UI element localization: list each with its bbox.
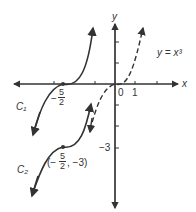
curve-c2 bbox=[32, 104, 91, 195]
y-axis-label: y bbox=[112, 12, 117, 22]
y-tick-neg3: −3 bbox=[99, 143, 110, 153]
point-c2-inflection bbox=[61, 145, 65, 149]
curve-y-equals-x-cubed bbox=[90, 28, 143, 130]
y-axis bbox=[115, 24, 119, 208]
c1-label: C₁ bbox=[16, 102, 26, 112]
x-axis-label: x bbox=[182, 79, 187, 89]
x-axis bbox=[14, 81, 178, 84]
x-tick-1: 1 bbox=[132, 88, 138, 98]
c2-label: C₂ bbox=[17, 165, 28, 175]
point-c1-inflection bbox=[61, 82, 65, 86]
curve-c1 bbox=[33, 28, 93, 134]
cubic-translation-diagram bbox=[0, 0, 196, 212]
equation-label: y = x³ bbox=[157, 48, 182, 58]
x-tick-0: 0 bbox=[118, 88, 124, 98]
